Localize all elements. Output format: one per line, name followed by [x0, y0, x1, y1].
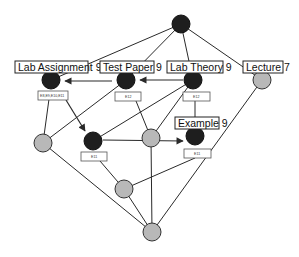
- node-mid-dark[interactable]: [84, 132, 102, 150]
- label-text: Example 9: [178, 117, 228, 129]
- edge-lab-theory-mid-dark: [93, 80, 193, 141]
- extent-test-paper: E12: [115, 92, 141, 101]
- concept-lattice-diagram: Lab Assignment 9 Test Paper 9 Lab Theory…: [0, 0, 299, 257]
- node-bottom[interactable]: [143, 223, 161, 241]
- edge-center-bottom: [151, 138, 152, 232]
- extent-text: E11: [91, 155, 97, 159]
- extent-example: E11: [184, 149, 211, 158]
- node-lecture-7[interactable]: [253, 71, 271, 89]
- label-text: Lab Theory 9: [170, 61, 232, 73]
- node-left-mid[interactable]: [34, 134, 52, 152]
- node-top[interactable]: [172, 15, 190, 33]
- label-text: Test Paper 9: [103, 61, 162, 73]
- label-lab-theory-9: Lab Theory 9: [167, 61, 232, 73]
- node-lab-assignment-9[interactable]: [42, 71, 60, 89]
- node-test-paper-9[interactable]: [117, 71, 135, 89]
- arrow-lab-assignment-to-mid-dark: [66, 100, 85, 131]
- extent-text: E11: [194, 152, 200, 156]
- label-text: Lab Assignment 9: [18, 61, 102, 73]
- node-lab-theory-9[interactable]: [184, 71, 202, 89]
- extent-lab-assignment: E8,E9,E10,E11: [38, 91, 68, 100]
- lattice-nodes: [34, 15, 271, 241]
- extent-text: E8,E9,E10,E11: [40, 94, 64, 98]
- edge-test-paper-left-mid: [43, 80, 126, 143]
- label-lab-assignment-9: Lab Assignment 9: [15, 61, 102, 73]
- node-example-9[interactable]: [186, 127, 204, 145]
- extent-text: E12: [193, 95, 199, 99]
- lattice-edges: [43, 24, 262, 232]
- extent-mid-dark: E11: [81, 152, 107, 161]
- extent-lab-theory: E12: [183, 92, 210, 101]
- label-text: Lecture 7: [246, 61, 290, 73]
- label-test-paper-9: Test Paper 9: [100, 61, 162, 73]
- label-lecture-7: Lecture 7: [243, 61, 290, 73]
- extent-text: E12: [125, 95, 131, 99]
- node-lower[interactable]: [115, 180, 133, 198]
- label-example-9: Example 9: [175, 117, 228, 129]
- node-center[interactable]: [142, 129, 160, 147]
- edge-example-lower: [124, 158, 195, 189]
